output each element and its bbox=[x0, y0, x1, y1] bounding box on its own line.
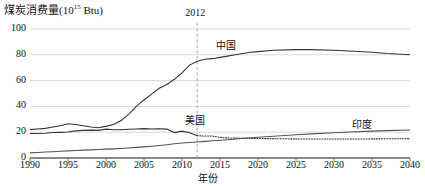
y-tick-label: 80 bbox=[0, 48, 26, 59]
x-tick-label: 2010 bbox=[162, 159, 202, 170]
x-tick-label: 1990 bbox=[10, 159, 50, 170]
x-tick-label: 2000 bbox=[86, 159, 126, 170]
y-axis-exponent: 15 bbox=[74, 3, 81, 11]
x-tick-label: 1995 bbox=[48, 159, 88, 170]
x-tick-label: 2020 bbox=[238, 159, 278, 170]
y-axis-title: 煤炭消费量(1015 Btu) bbox=[4, 1, 103, 17]
series-label-印度: 印度 bbox=[352, 116, 372, 131]
y-tick-label: 40 bbox=[0, 99, 26, 110]
y-axis-unit: Btu) bbox=[81, 4, 103, 16]
annotation-label-2012: 2012 bbox=[185, 7, 205, 18]
x-tick-label: 2015 bbox=[200, 159, 240, 170]
x-tick-label: 2040 bbox=[390, 159, 425, 170]
y-tick-label: 60 bbox=[0, 74, 26, 85]
series-line-印度 bbox=[30, 130, 410, 153]
x-tick-label: 2030 bbox=[314, 159, 354, 170]
x-axis-title: 年份 bbox=[0, 170, 416, 185]
series-label-中国: 中国 bbox=[216, 37, 236, 52]
y-axis-title-text: 煤炭消费量(10 bbox=[4, 4, 74, 16]
x-tick-label: 2005 bbox=[124, 159, 164, 170]
y-tick-label: 100 bbox=[0, 22, 26, 33]
series-line-projection-美国 bbox=[197, 136, 410, 139]
x-tick-label: 2035 bbox=[352, 159, 392, 170]
series-label-美国: 美国 bbox=[185, 112, 205, 127]
x-tick-label: 2025 bbox=[276, 159, 316, 170]
y-tick-label: 20 bbox=[0, 125, 26, 136]
